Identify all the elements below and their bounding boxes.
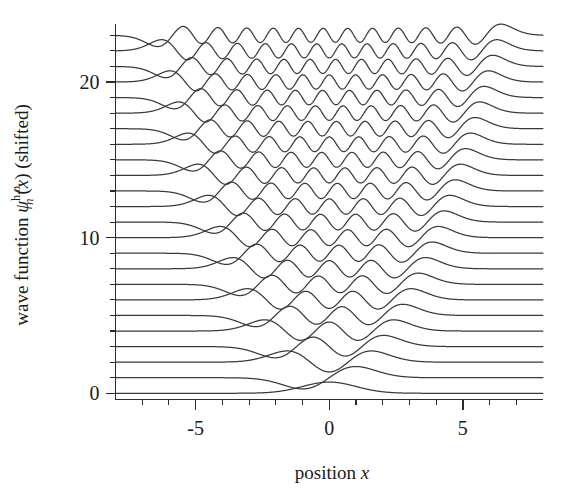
x-axis-title: position x xyxy=(295,462,370,483)
wave-curve xyxy=(116,211,543,233)
wave-curve xyxy=(116,149,543,171)
wave-curve xyxy=(116,304,543,326)
svg-text:position x: position x xyxy=(295,462,370,483)
wave-curves xyxy=(116,24,543,393)
wave-curve xyxy=(116,226,543,246)
y-tick-label: 0 xyxy=(90,382,100,404)
x-tick-label: 0 xyxy=(324,417,334,439)
wave-curve xyxy=(116,367,543,389)
x-tick-labels: -505 xyxy=(187,417,468,439)
wave-curve xyxy=(116,320,543,340)
wave-curve xyxy=(116,133,543,153)
plot-canvas: 01020 -505 position x wave function ψh.o… xyxy=(0,0,565,495)
y-tick-label: 10 xyxy=(80,227,100,249)
y-axis-title: wave function ψh.o.n(x) (shifted) xyxy=(9,104,36,325)
wave-curve xyxy=(116,195,543,215)
x-tick-marks xyxy=(142,400,516,410)
y-tick-marks xyxy=(106,35,116,393)
wave-curve xyxy=(116,24,543,46)
x-tick-label: -5 xyxy=(187,417,204,439)
y-tick-label: 20 xyxy=(80,71,100,93)
wave-curve xyxy=(116,86,543,108)
y-axis: 01020 xyxy=(80,24,116,404)
wave-curve xyxy=(116,102,543,122)
wave-curve xyxy=(116,258,543,278)
wave-curve xyxy=(116,351,543,372)
wave-curve xyxy=(116,289,543,309)
y-tick-labels: 01020 xyxy=(80,71,100,404)
harmonic-oscillator-wavefunction-chart: 01020 -505 position x wave function ψh.o… xyxy=(0,0,565,495)
wave-curve xyxy=(116,273,543,295)
wave-curve xyxy=(116,335,543,357)
wave-curve xyxy=(116,382,543,393)
wave-curve xyxy=(116,55,543,77)
x-tick-label: 5 xyxy=(458,417,468,439)
svg-text:wave function ψh.o.n(x) (shift: wave function ψh.o.n(x) (shifted) xyxy=(9,104,36,325)
x-axis: -505 xyxy=(116,400,544,439)
